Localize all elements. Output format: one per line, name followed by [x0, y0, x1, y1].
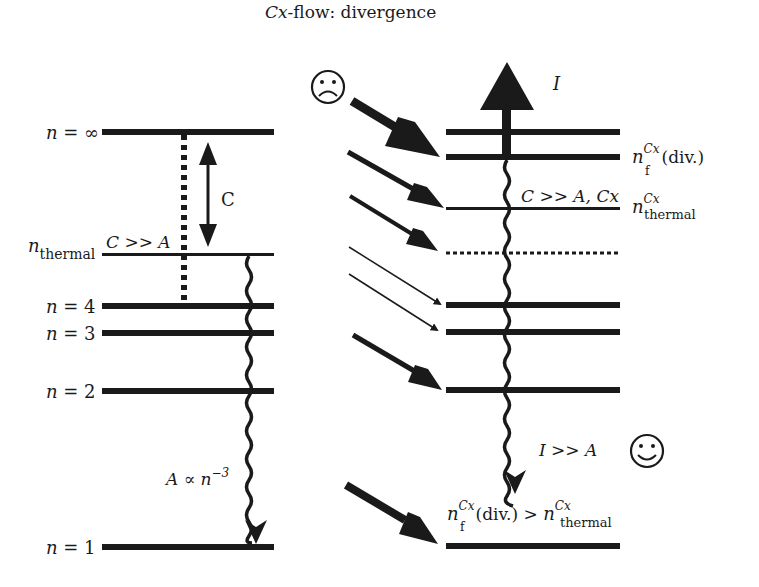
cx-flow-divergence-diagram: Cx-flow: divergence n = ∞ nthermal n = 4…: [0, 0, 759, 587]
level-r-4: [446, 302, 620, 308]
label-n-4: n = 4: [46, 296, 96, 317]
arrow-up-head-icon: [199, 142, 217, 165]
level-n-2: [102, 388, 274, 394]
nf-div-label: nCx(div.): [632, 142, 704, 167]
bottom-relation-sub-f: f: [460, 520, 466, 534]
level-r-3: [446, 329, 620, 335]
nf-div-sub: f: [645, 164, 651, 178]
level-n-inf: [102, 129, 274, 135]
ionization-arrow: [480, 62, 534, 160]
c-gg-a-label: C >> A: [106, 232, 171, 252]
collision-label: C: [221, 189, 235, 210]
level-r-top: [446, 129, 620, 135]
sad-face-icon: [312, 71, 344, 103]
cx-arrow-5: [349, 274, 437, 330]
level-n-4: [102, 303, 274, 309]
ionization-label: I: [552, 73, 561, 94]
bottom-relation-sub-thermal: thermal: [560, 515, 612, 530]
cx-arrow-4: [349, 247, 440, 304]
n-thermal-cx-sub: thermal: [644, 207, 696, 222]
level-r-2: [446, 387, 620, 393]
level-r-thermal-cx: [446, 207, 620, 210]
label-n-2: n = 2: [46, 381, 96, 402]
radiative-decay-wave: [247, 256, 253, 543]
arrow-down-head-icon: [199, 224, 217, 247]
level-n-1: [102, 544, 274, 550]
cx-arrow-7: [346, 485, 438, 544]
c-gg-a-cx-label: C >> A, Cx: [521, 186, 619, 206]
cx-arrow-1: [352, 101, 440, 157]
left-level-labels: n = ∞ nthermal n = 4 n = 3 n = 2 n = 1: [28, 122, 99, 558]
collision-double-arrow: [199, 142, 217, 247]
diagram-title: Cx-flow: divergence: [265, 2, 436, 22]
ionization-arrow-head-icon: [480, 62, 534, 110]
cx-arrow-6: [353, 335, 442, 390]
label-n-3: n = 3: [46, 323, 96, 344]
happy-face-icon: [631, 435, 663, 467]
level-r-nf-div: [446, 154, 620, 160]
level-n-3: [102, 330, 274, 336]
i-gg-a-label: I >> A: [538, 440, 597, 460]
label-n-thermal: nthermal: [28, 235, 96, 262]
cx-arrow-3: [350, 196, 438, 251]
label-n-1: n = 1: [46, 537, 96, 558]
cx-arrow-2: [348, 152, 444, 208]
radiative-rate-label: A ∝ n−3: [164, 466, 230, 489]
label-n-inf: n = ∞: [46, 122, 99, 143]
level-r-1: [446, 543, 620, 549]
